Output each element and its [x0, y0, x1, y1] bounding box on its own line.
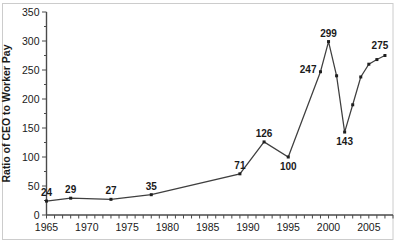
data-point-label: 143: [336, 136, 353, 147]
chart-canvas: 0501001502002503003501965197019751980198…: [0, 0, 400, 243]
data-point-label: 126: [256, 128, 273, 139]
data-point-marker: [327, 40, 330, 43]
data-point-marker: [238, 172, 241, 175]
data-point-marker: [335, 74, 338, 77]
x-axis-tick-label: 1985: [196, 221, 220, 233]
data-point-label: 29: [65, 184, 77, 195]
y-axis-tick-label: 350: [22, 6, 40, 18]
y-axis-tick-label: 50: [28, 180, 40, 192]
data-point-marker: [287, 156, 290, 159]
x-axis-tick-label: 1990: [236, 221, 260, 233]
y-axis-tick-label: 0: [34, 209, 40, 221]
data-point-marker: [367, 63, 370, 66]
data-point-marker: [351, 103, 354, 106]
data-point-marker: [383, 54, 386, 57]
x-axis-tick-label: 1980: [156, 221, 180, 233]
x-axis-tick-label: 1995: [277, 221, 301, 233]
x-axis-tick-label: 1975: [115, 221, 139, 233]
ceo-pay-ratio-chart: 0501001502002503003501965197019751980198…: [0, 0, 400, 243]
x-axis-tick-label: 1965: [35, 221, 59, 233]
data-point-label: 71: [234, 160, 246, 171]
y-axis-tick-label: 300: [22, 35, 40, 47]
data-point-label: 27: [105, 185, 117, 196]
y-axis-title: Ratio of CEO to Worker Pay: [0, 44, 12, 182]
data-point-marker: [375, 58, 378, 61]
y-axis-tick-label: 100: [22, 151, 40, 163]
y-axis-tick-label: 250: [22, 64, 40, 76]
data-point-label: 24: [41, 187, 53, 198]
data-point-marker: [150, 193, 153, 196]
x-axis-tick-label: 2005: [357, 221, 381, 233]
x-axis-tick-label: 2000: [317, 221, 341, 233]
y-axis-tick-label: 200: [22, 93, 40, 105]
y-axis-tick-label: 150: [22, 122, 40, 134]
series-line: [47, 42, 385, 202]
data-point-label: 299: [320, 28, 337, 39]
data-point-label: 275: [372, 40, 389, 51]
data-point-label: 35: [146, 181, 158, 192]
data-point-marker: [263, 140, 266, 143]
data-point-label: 100: [280, 161, 297, 172]
data-point-marker: [359, 75, 362, 78]
data-point-marker: [69, 197, 72, 200]
x-axis-tick-label: 1970: [75, 221, 99, 233]
data-point-marker: [45, 200, 48, 203]
chart-area-border: [3, 4, 394, 240]
data-point-marker: [109, 198, 112, 201]
data-point-marker: [343, 131, 346, 134]
data-point-label: 247: [300, 64, 317, 75]
data-point-marker: [319, 70, 322, 73]
